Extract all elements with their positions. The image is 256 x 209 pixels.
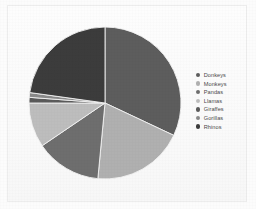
legend-item-donkeys[interactable]: Donkeys [196, 71, 254, 79]
pie-svg [27, 25, 183, 181]
legend-item-giraffes[interactable]: Giraffes [196, 105, 254, 113]
legend-item-monkeys[interactable]: Monkeys [196, 80, 254, 88]
legend-item-gorillas[interactable]: Gorillas [196, 114, 254, 122]
legend-marker-icon [196, 116, 200, 120]
legend-label: Pandas [204, 88, 223, 96]
legend-label: Giraffes [204, 105, 224, 113]
pie-chart-figure: DonkeysMonkeysPandasLlamasGiraffesGorill… [0, 0, 256, 209]
chart-legend: DonkeysMonkeysPandasLlamasGiraffesGorill… [196, 71, 254, 131]
pie-slice-rhinos[interactable] [30, 27, 105, 103]
legend-label: Gorillas [204, 114, 223, 122]
legend-marker-icon [196, 99, 200, 103]
legend-item-rhinos[interactable]: Rhinos [196, 123, 254, 131]
legend-item-llamas[interactable]: Llamas [196, 97, 254, 105]
legend-item-pandas[interactable]: Pandas [196, 88, 254, 96]
legend-marker-icon [196, 124, 200, 128]
pie-slice-group [29, 27, 181, 179]
legend-marker-icon [196, 81, 200, 85]
legend-label: Rhinos [204, 123, 222, 131]
pie-plot-area [27, 25, 183, 181]
legend-marker-icon [196, 73, 200, 77]
legend-label: Monkeys [204, 80, 227, 88]
legend-marker-icon [196, 107, 200, 111]
legend-marker-icon [196, 90, 200, 94]
legend-label: Llamas [204, 97, 222, 105]
legend-label: Donkeys [204, 71, 226, 79]
